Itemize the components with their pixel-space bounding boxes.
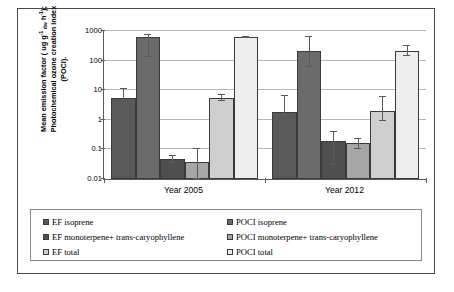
legend-entry[interactable]: POCI isoprene xyxy=(227,214,287,229)
error-cap-lower xyxy=(281,121,288,122)
legend-entry[interactable]: EF monoterpene+ trans-caryophyllene xyxy=(43,229,184,244)
error-cap-upper xyxy=(330,131,337,132)
y-tick-label: 1000 xyxy=(62,27,102,35)
y-tick-label: 0.01 xyxy=(62,175,102,183)
y-tick-label: 100 xyxy=(62,57,102,65)
legend-swatch-icon xyxy=(43,234,49,240)
legend-swatch-icon xyxy=(43,219,49,225)
error-cap-lower xyxy=(330,164,337,165)
error-cap-upper xyxy=(281,95,288,96)
bar xyxy=(234,37,259,179)
bar xyxy=(395,51,420,179)
bar xyxy=(209,98,234,179)
gridline xyxy=(104,30,426,31)
error-cap-upper xyxy=(218,94,225,95)
x-axis-tick xyxy=(426,178,427,183)
legend-swatch-icon xyxy=(227,249,233,255)
error-cap-upper xyxy=(379,96,386,97)
y-tick-label: 1 xyxy=(62,116,102,124)
legend-swatch-icon xyxy=(227,234,233,240)
error-cap-lower xyxy=(193,178,200,179)
error-cap-lower xyxy=(144,56,151,57)
x-axis-tick xyxy=(104,178,105,183)
error-bar xyxy=(309,37,310,67)
plot-area: 10001001010.10.01 xyxy=(103,31,426,180)
error-cap-lower xyxy=(379,120,386,121)
error-bar xyxy=(333,132,334,165)
legend-label: EF isoprene xyxy=(52,217,93,227)
error-cap-upper xyxy=(169,155,176,156)
legend-entry[interactable]: POCI monoterpene+ trans-caryophyllene xyxy=(227,229,378,244)
legend-row: EF isoprenePOCI isoprene xyxy=(31,214,423,229)
y-tick-label: 0.1 xyxy=(62,145,102,153)
error-cap-lower xyxy=(403,55,410,56)
figure-frame: Mean emission factor ( ug g-1 dw h-1); P… xyxy=(17,8,435,274)
error-bar xyxy=(197,149,198,179)
error-cap-lower xyxy=(305,66,312,67)
error-cap-lower xyxy=(169,162,176,163)
bar xyxy=(111,98,136,179)
x-axis-group-label: Year 2005 xyxy=(124,185,244,195)
error-cap-lower xyxy=(218,100,225,101)
error-cap-lower xyxy=(354,148,361,149)
y-axis-title-line1: Mean emission factor ( ug g xyxy=(39,35,48,132)
error-cap-upper xyxy=(354,138,361,139)
y-axis-title-line2: Photochemical ozone creation index xyxy=(49,6,58,133)
error-cap-upper xyxy=(120,88,127,89)
y-tick-label: 10 xyxy=(62,86,102,94)
error-cap-lower xyxy=(242,37,249,38)
y-axis-sup-1: -1 xyxy=(38,31,44,36)
legend-swatch-icon xyxy=(227,219,233,225)
legend-label: EF monoterpene+ trans-caryophyllene xyxy=(52,232,184,242)
y-axis-title: Mean emission factor ( ug g-1 dw h-1); P… xyxy=(39,0,55,144)
legend-entry[interactable]: EF total xyxy=(43,244,79,259)
bar xyxy=(297,51,322,179)
error-cap-upper xyxy=(144,34,151,35)
chart-region: Mean emission factor ( ug g-1 dw h-1); P… xyxy=(18,9,436,197)
error-cap-upper xyxy=(193,148,200,149)
legend-label: POCI isoprene xyxy=(236,217,287,227)
legend-swatch-icon xyxy=(43,249,49,255)
legend-label: EF total xyxy=(52,247,79,257)
legend-entry[interactable]: POCI total xyxy=(227,244,273,259)
legend-entry[interactable]: EF isoprene xyxy=(43,214,93,229)
legend-row: EF monoterpene+ trans-caryophyllenePOCI … xyxy=(31,229,423,244)
x-axis-group-label: Year 2012 xyxy=(285,185,405,195)
x-axis-tick xyxy=(265,178,266,183)
error-bar xyxy=(284,96,285,122)
error-cap-lower xyxy=(120,104,127,105)
error-cap-upper xyxy=(403,45,410,46)
error-bar xyxy=(123,89,124,105)
error-bar xyxy=(148,35,149,57)
error-bar xyxy=(382,97,383,121)
legend-label: POCI monoterpene+ trans-caryophyllene xyxy=(236,232,378,242)
y-axis-sup-2: -1 xyxy=(38,11,44,16)
legend-label: POCI total xyxy=(236,247,273,257)
bar xyxy=(136,37,161,179)
chart-legend: EF isoprenePOCI isopreneEF monoterpene+ … xyxy=(30,209,422,261)
legend-row: EF totalPOCI total xyxy=(31,244,423,259)
error-cap-upper xyxy=(305,36,312,37)
y-axis-sub-dw: dw xyxy=(42,22,48,31)
